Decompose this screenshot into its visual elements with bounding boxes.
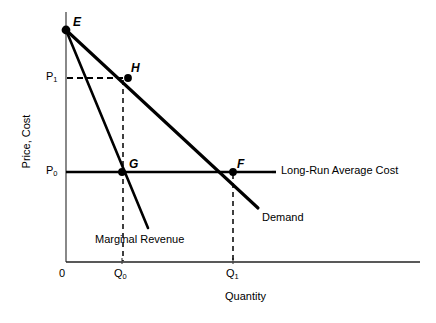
point-f-marker xyxy=(229,168,237,176)
demand-line xyxy=(66,30,258,208)
marginal-revenue-line xyxy=(66,30,148,228)
y-tick-label-p1: P1 xyxy=(46,71,58,82)
x-tick-label-q0-sub: 0 xyxy=(123,272,127,281)
origin-label: 0 xyxy=(59,268,65,279)
x-tick-label-q1-base: Q xyxy=(226,267,235,279)
point-g-marker xyxy=(118,168,126,176)
lrac-label: Long-Run Average Cost xyxy=(281,165,398,176)
point-label-f: F xyxy=(237,158,244,170)
x-axis-title: Quantity xyxy=(225,291,266,302)
point-label-e: E xyxy=(73,16,81,28)
x-tick-label-q1: Q1 xyxy=(226,268,239,279)
demand-label: Demand xyxy=(262,212,304,223)
y-tick-label-p0-sub: 0 xyxy=(53,169,57,178)
x-tick-label-q1-sub: 1 xyxy=(235,272,239,281)
y-tick-label-p0: P0 xyxy=(46,165,58,176)
point-label-g: G xyxy=(129,158,138,170)
economics-diagram xyxy=(0,0,436,323)
marginal-revenue-label: Marginal Revenue xyxy=(95,234,184,245)
x-tick-label-q0: Q0 xyxy=(114,268,127,279)
x-tick-label-q0-base: Q xyxy=(114,267,123,279)
y-axis-title: Price, Cost xyxy=(21,104,32,180)
y-tick-label-p1-sub: 1 xyxy=(53,75,57,84)
point-e-marker xyxy=(62,26,71,35)
point-label-h: H xyxy=(131,62,140,74)
figure-canvas: Price, Cost Quantity 0 Q0 Q1 P1 P0 E H G… xyxy=(0,0,436,323)
point-h-marker xyxy=(124,74,132,82)
